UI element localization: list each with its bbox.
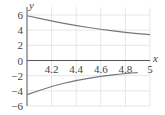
y-tick-label: −2 xyxy=(11,70,23,82)
y-axis-label: y xyxy=(28,0,34,11)
curve-line xyxy=(27,16,150,35)
x-tick-label: 5 xyxy=(147,63,153,75)
x-axis-label: x xyxy=(152,52,158,64)
x-tick-label: 4.4 xyxy=(69,63,83,75)
y-tick-label: 6 xyxy=(18,9,24,21)
y-tick-label: −6 xyxy=(11,100,23,112)
y-tick-label: 2 xyxy=(18,39,24,51)
x-tick-label: 4.2 xyxy=(45,63,59,75)
y-tick-label: −4 xyxy=(11,85,23,97)
x-tick-label: 4.6 xyxy=(94,63,108,75)
y-tick-label: 0 xyxy=(18,55,24,67)
chart: 4.24.44.64.856420−2−4−6xy xyxy=(0,0,165,115)
y-tick-label: 4 xyxy=(18,24,24,36)
